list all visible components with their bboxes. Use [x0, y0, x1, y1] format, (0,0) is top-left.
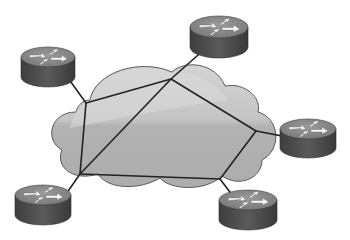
network-diagram: [0, 0, 350, 240]
diagram-canvas: [0, 0, 350, 240]
router-bottom-left-icon: [15, 185, 71, 225]
router-bottom-right-icon: [219, 190, 277, 230]
router-top-left-icon: [21, 47, 75, 87]
router-top-icon: [190, 16, 248, 58]
router-right-icon: [280, 119, 336, 158]
